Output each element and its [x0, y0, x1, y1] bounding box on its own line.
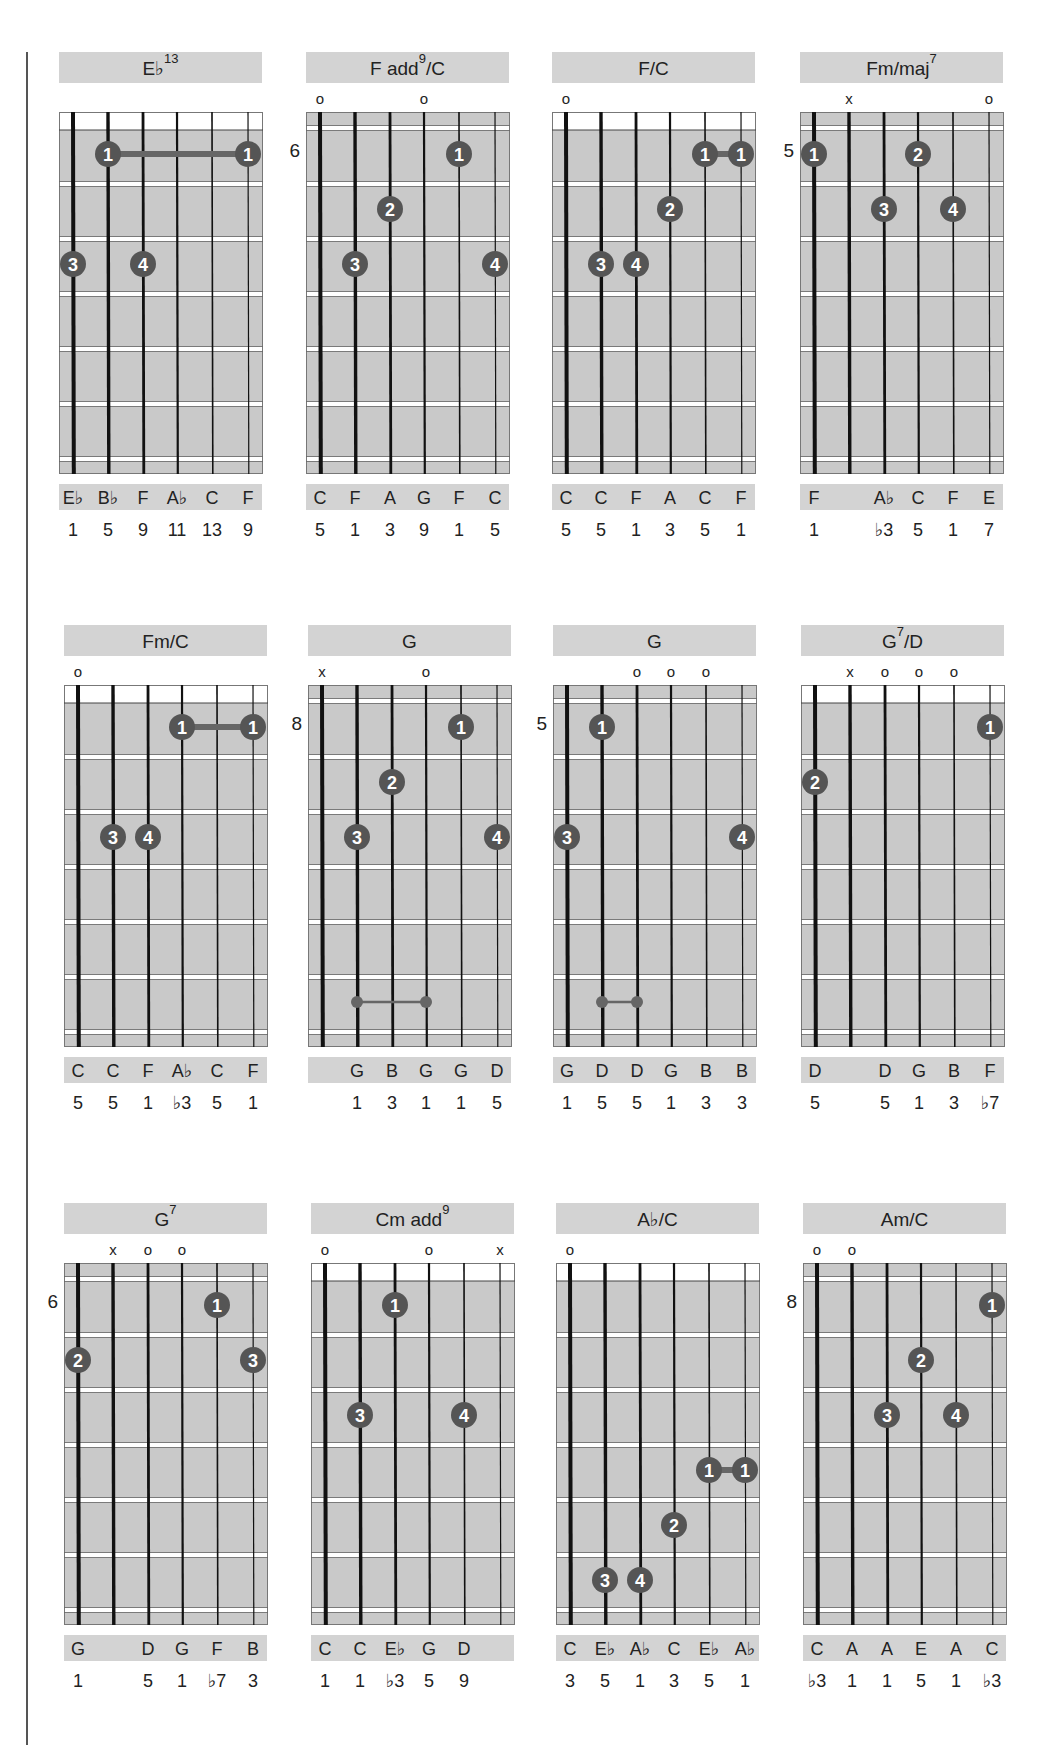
svg-text:4: 4	[948, 200, 958, 220]
string-interval: 5	[549, 518, 583, 542]
string-note: A♭	[867, 484, 901, 512]
interval-row: 351351	[556, 1669, 759, 1693]
string-interval: ♭3	[867, 518, 901, 542]
fretboard: 12	[801, 685, 1006, 1047]
string-interval: 1	[308, 1669, 342, 1693]
finger-dot: 1	[692, 141, 718, 167]
string-note: F	[131, 1057, 165, 1085]
string-interval: 1	[343, 1669, 377, 1693]
guitar-string	[850, 685, 851, 1047]
string-interval: 1	[165, 1669, 199, 1693]
chord-name: Fm/C	[142, 631, 188, 652]
fretboard: 11234	[556, 1263, 761, 1625]
open-string-icon: o	[560, 1241, 580, 1258]
guitar-string	[953, 112, 954, 474]
string-note: G	[444, 1057, 478, 1085]
string-interval: 1	[902, 1091, 936, 1115]
string-interval: 1	[338, 518, 372, 542]
svg-text:1: 1	[809, 145, 819, 165]
chord-title: F/C	[552, 52, 755, 83]
notes-bar: GDGFB	[64, 1635, 267, 1661]
string-note: C	[549, 484, 583, 512]
string-interval: 5	[412, 1669, 446, 1693]
finger-dot: 1	[448, 714, 474, 740]
string-interval: 5	[692, 1669, 726, 1693]
finger-dot: 2	[377, 196, 403, 222]
guitar-string	[217, 685, 218, 1047]
string-markers: xoo	[64, 1241, 267, 1261]
chord-title: F add9/C	[306, 52, 509, 83]
interval-row: 513915	[306, 518, 509, 542]
guitar-string	[320, 112, 321, 474]
string-interval: ♭3	[378, 1669, 412, 1693]
svg-text:1: 1	[243, 145, 253, 165]
open-string-icon: o	[875, 663, 895, 680]
string-interval: 1	[623, 1669, 657, 1693]
string-note: F	[231, 484, 265, 512]
chord-name: Am/C	[881, 1209, 929, 1230]
start-fret-label: 5	[529, 713, 547, 735]
guitar-string	[921, 1263, 922, 1625]
chord-title: Fm/maj7	[800, 52, 1003, 83]
finger-dot: 1	[979, 1292, 1005, 1318]
finger-dot: 1	[801, 141, 827, 167]
fretboard: 123	[64, 1263, 269, 1625]
string-note: F	[619, 484, 653, 512]
svg-text:3: 3	[879, 200, 889, 220]
string-interval: 1	[131, 1091, 165, 1115]
string-interval: 5	[584, 518, 618, 542]
open-string-icon: o	[979, 90, 999, 107]
notes-bar: E♭B♭FA♭CF	[59, 484, 262, 510]
string-note: G	[550, 1057, 584, 1085]
chord-diagram: G7xoo6123GDGFB151♭73	[64, 1203, 270, 1703]
fretboard: 1134	[64, 685, 269, 1047]
notes-bar: GBGGD	[308, 1057, 511, 1083]
notes-bar: FA♭CFE	[800, 484, 1003, 510]
guitar-string	[637, 685, 638, 1047]
guitar-string	[815, 685, 816, 1047]
svg-text:3: 3	[600, 1571, 610, 1591]
finger-dot: 1	[589, 714, 615, 740]
string-interval: ♭3	[800, 1669, 834, 1693]
string-note: F	[338, 484, 372, 512]
notes-bar: CCE♭GD	[311, 1635, 514, 1661]
finger-dot: 2	[905, 141, 931, 167]
guitar-string	[73, 112, 74, 474]
guitar-string	[567, 685, 568, 1047]
guitar-string	[919, 685, 920, 1047]
guitar-string	[253, 1263, 254, 1625]
guitar-string	[570, 1263, 571, 1625]
string-note: B♭	[91, 484, 125, 512]
chord-title: E♭13	[59, 52, 262, 83]
string-interval: 9	[231, 518, 265, 542]
fretboard: 1234	[800, 112, 1005, 474]
guitar-string	[177, 112, 178, 474]
guitar-string	[355, 112, 356, 474]
open-string-icon: o	[807, 1241, 827, 1258]
string-note: C	[800, 1635, 834, 1663]
muted-string-icon: x	[312, 663, 332, 680]
svg-text:3: 3	[248, 1351, 258, 1371]
muted-string-icon: x	[839, 90, 859, 107]
string-note: C	[61, 1057, 95, 1085]
start-fret-label: 6	[282, 140, 300, 162]
svg-text:1: 1	[212, 1296, 222, 1316]
string-note: D	[868, 1057, 902, 1085]
string-note: B	[689, 1057, 723, 1085]
guitar-string	[182, 1263, 183, 1625]
chord-bass: /C	[426, 58, 445, 79]
finger-dot: 1	[204, 1292, 230, 1318]
string-interval: 3	[725, 1091, 759, 1115]
chord-title: G7/D	[801, 625, 1004, 656]
svg-text:3: 3	[562, 828, 572, 848]
chord-title: A♭/C	[556, 1203, 759, 1234]
finger-dot: 4	[482, 251, 508, 277]
svg-text:1: 1	[248, 718, 258, 738]
string-interval: ♭7	[973, 1091, 1007, 1115]
finger-dot: 4	[484, 824, 510, 850]
finger-dot: 2	[379, 769, 405, 795]
open-string-icon: o	[68, 663, 88, 680]
svg-text:2: 2	[387, 773, 397, 793]
guitar-string	[709, 1263, 710, 1625]
string-note: A♭	[728, 1635, 762, 1663]
